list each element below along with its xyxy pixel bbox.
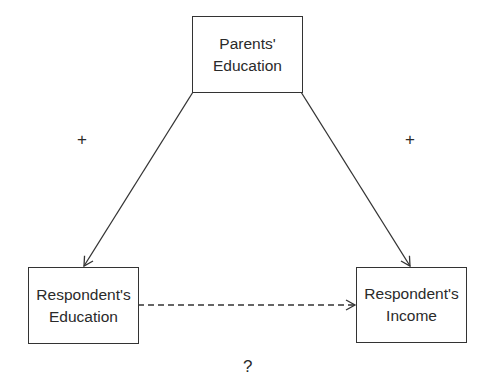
node-label-line1: Respondent's [36, 284, 130, 306]
node-label-line2: Education [49, 306, 118, 328]
sign-right-positive: + [405, 130, 415, 150]
arrow-parents-to-respondent-education [84, 92, 193, 266]
sign-left-positive: + [77, 130, 87, 150]
node-respondent-education: Respondent's Education [28, 267, 139, 344]
node-label-line1: Parents' [219, 33, 275, 55]
node-respondent-income: Respondent's Income [356, 267, 467, 343]
node-label-line1: Respondent's [364, 283, 458, 305]
node-label-line2: Education [213, 55, 282, 77]
node-label-line2: Income [386, 305, 437, 327]
sign-unknown: ? [243, 357, 252, 377]
node-parents-education: Parents' Education [192, 16, 303, 93]
arrow-parents-to-respondent-income [301, 92, 410, 266]
